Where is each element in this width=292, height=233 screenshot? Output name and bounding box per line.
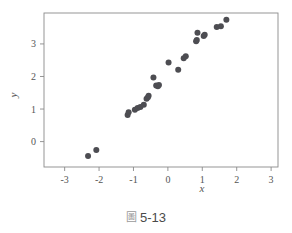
figure-caption: 圖 5-13 — [0, 201, 292, 233]
data-point — [194, 37, 200, 43]
x-axis-label: x — [199, 182, 205, 194]
y-tick-label: 0 — [31, 136, 36, 147]
y-tick-label: 2 — [31, 71, 36, 82]
y-tick-label: 3 — [31, 38, 36, 49]
y-axis-ticks: 0123 — [31, 38, 44, 147]
x-tick-label: -2 — [95, 174, 103, 185]
caption-number: 5-13 — [140, 211, 166, 224]
data-point — [223, 17, 229, 23]
figure-container: -3-2-10123 0123 x y 圖 5-13 — [0, 0, 292, 233]
x-axis-ticks: -3-2-10123 — [60, 167, 273, 185]
chart-svg: -3-2-10123 0123 x y — [0, 0, 292, 200]
y-tick-label: 1 — [31, 104, 36, 115]
plot-frame — [44, 13, 278, 167]
x-tick-label: -3 — [60, 174, 68, 185]
x-tick-label: -1 — [129, 174, 137, 185]
data-point — [146, 93, 152, 99]
data-point — [202, 32, 208, 38]
data-point — [218, 23, 224, 29]
data-point — [126, 109, 132, 115]
data-point — [150, 74, 156, 80]
x-tick-label: 2 — [234, 174, 239, 185]
data-points — [85, 17, 229, 159]
scatter-plot: -3-2-10123 0123 x y — [0, 0, 292, 200]
data-point — [183, 53, 189, 59]
data-point — [85, 153, 91, 159]
x-tick-label: 0 — [165, 174, 170, 185]
plot-box — [44, 13, 278, 167]
data-point — [141, 102, 147, 108]
x-tick-label: 3 — [269, 174, 274, 185]
data-point — [194, 30, 200, 36]
data-point — [175, 67, 181, 73]
data-point — [156, 82, 162, 88]
data-point — [166, 59, 172, 65]
caption-prefix: 圖 — [126, 212, 137, 223]
data-point — [93, 147, 99, 153]
y-axis-label: y — [7, 92, 19, 98]
